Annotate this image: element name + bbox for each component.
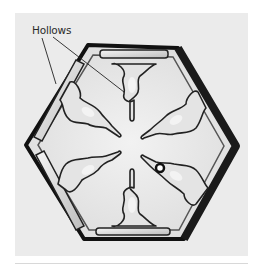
bottom-divider [15,263,248,264]
air-bubble [156,164,164,172]
hollows-label: Hollows [32,24,71,36]
snowflake-photo [15,13,248,256]
snowflake-illustration [15,13,248,256]
